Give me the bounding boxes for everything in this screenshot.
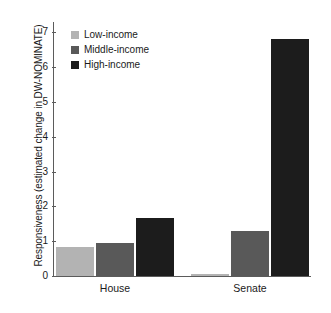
bar xyxy=(96,243,134,276)
bar xyxy=(231,231,269,276)
legend-label: High-income xyxy=(84,60,140,70)
y-tick-label: 0 xyxy=(42,271,48,281)
y-tick-label: 3 xyxy=(42,167,48,177)
y-tick-label: 7 xyxy=(42,27,48,37)
bar-chart-figure: Responsiveness (estimated change in DW-N… xyxy=(0,0,331,313)
x-category-label: House xyxy=(100,282,130,294)
legend-swatch-middle-income xyxy=(71,46,79,54)
y-tick-label: 1 xyxy=(42,236,48,246)
x-axis-line xyxy=(53,276,311,277)
y-axis-line xyxy=(53,22,54,276)
legend-item: High-income xyxy=(71,58,149,71)
y-tick-mark xyxy=(52,276,56,277)
bar xyxy=(271,39,309,276)
legend-item: Low-income xyxy=(71,28,149,41)
bar xyxy=(191,274,229,276)
legend-swatch-high-income xyxy=(71,61,79,69)
legend-swatch-low-income xyxy=(71,31,79,39)
legend-label: Middle-income xyxy=(84,45,149,55)
bar xyxy=(136,218,174,276)
y-tick-mark xyxy=(52,172,56,173)
x-category-label: Senate xyxy=(233,282,266,294)
y-tick-mark xyxy=(52,67,56,68)
y-tick-label: 6 xyxy=(42,62,48,72)
y-tick-label: 4 xyxy=(42,132,48,142)
y-tick-label: 5 xyxy=(42,97,48,107)
y-tick-mark xyxy=(52,137,56,138)
y-tick-mark xyxy=(52,241,56,242)
y-tick-label: 2 xyxy=(42,201,48,211)
y-tick-mark xyxy=(52,32,56,33)
bar xyxy=(56,247,94,276)
y-tick-mark xyxy=(52,206,56,207)
legend-item: Middle-income xyxy=(71,43,149,56)
y-tick-mark xyxy=(52,102,56,103)
legend-label: Low-income xyxy=(84,30,138,40)
chart-legend: Low-incomeMiddle-incomeHigh-income xyxy=(71,28,149,73)
